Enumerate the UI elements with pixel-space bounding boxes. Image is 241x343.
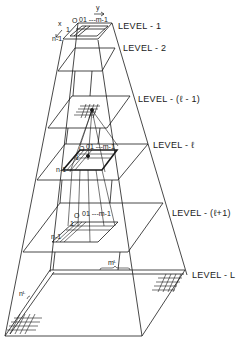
level-l-plus-1-row-one: 1	[70, 220, 74, 227]
level-l-col-range: 01 ---m-1	[86, 143, 115, 150]
level-1-origin: O	[72, 17, 77, 24]
level-l-origin: O	[79, 145, 84, 152]
level-l-row-one: 1	[75, 154, 79, 161]
level-2-label: LEVEL - 2	[123, 44, 166, 53]
level-l-plus-1-origin: O	[74, 212, 79, 219]
pyramid-diagram	[0, 0, 241, 343]
pyramid-edges	[5, 23, 187, 336]
x-axis-label: x	[58, 20, 62, 27]
width-mL-label: mᴸ	[108, 259, 116, 266]
level-L-plane	[5, 266, 185, 336]
projection-lines-lower	[68, 170, 115, 242]
level-1-label: LEVEL - 1	[118, 22, 161, 31]
level-l-plus-1-col-range: 01 ---m-1	[82, 210, 111, 217]
height-nL-label: nᴸ	[19, 290, 25, 297]
level-l-minus-1-plane	[48, 96, 130, 128]
level-1-row-one: 1	[66, 26, 70, 33]
level-1-plane	[63, 23, 112, 39]
level-2-plane	[58, 48, 115, 71]
level-l-plus-1-row-last: n-1	[51, 233, 61, 240]
level-l-minus-1-label: LEVEL - (ℓ - 1)	[138, 95, 200, 104]
level-L-label: LEVEL - L	[192, 271, 235, 280]
y-axis-label: y	[96, 4, 100, 11]
level-1-col-range: 01 ---m-1	[79, 16, 108, 23]
level-1-row-last: n-1	[52, 35, 62, 42]
level-l-row-last: n-1	[56, 166, 66, 173]
level-l-label: LEVEL - ℓ	[153, 141, 194, 150]
level-l-plus-1-label: LEVEL - (ℓ+1)	[172, 209, 231, 218]
